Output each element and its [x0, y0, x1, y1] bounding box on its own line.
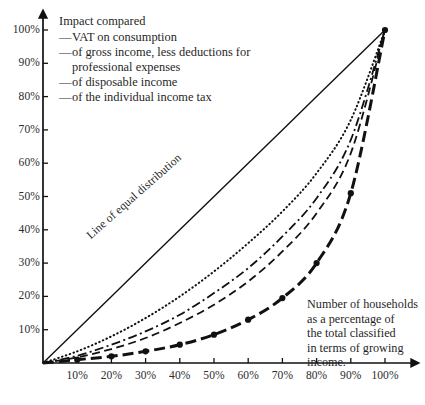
- y-tick-label: 70%: [0, 123, 40, 135]
- legend-item-continuation: professional expenses: [59, 60, 309, 75]
- series-marker: [74, 357, 80, 363]
- y-tick-label: 60%: [0, 156, 40, 168]
- legend-dash-icon: —: [59, 75, 71, 90]
- legend-item-disposable-income: —of disposable income: [59, 75, 309, 90]
- x-axis-annotation: Number of households as a percentage of …: [307, 297, 425, 370]
- series-marker: [245, 317, 251, 323]
- legend-item-label: VAT on consumption: [72, 30, 177, 44]
- series-marker: [382, 27, 388, 33]
- legend-item-label: of gross income, less deductions for: [72, 45, 250, 59]
- annotation-line-3: the total classified: [307, 326, 425, 341]
- series-marker: [314, 260, 320, 266]
- y-tick-label: 90%: [0, 56, 40, 68]
- annotation-line-1: Number of households: [307, 297, 425, 312]
- series-marker: [177, 342, 183, 348]
- legend-dash-icon: —: [59, 45, 71, 60]
- y-tick-label: 50%: [0, 190, 40, 202]
- series-marker: [348, 190, 354, 196]
- legend-title: Impact compared: [59, 14, 309, 29]
- legend-item-label: of disposable income: [72, 75, 177, 89]
- y-tick-label: 30%: [0, 256, 40, 268]
- annotation-line-2: as a percentage of: [307, 312, 425, 327]
- x-tick-label: 100%: [365, 369, 405, 381]
- y-tick-label: 40%: [0, 223, 40, 235]
- annotation-line-5: income.: [307, 355, 425, 370]
- legend-item-vat: —VAT on consumption: [59, 30, 309, 45]
- y-tick-label: 10%: [0, 323, 40, 335]
- legend-dash-icon: —: [59, 30, 71, 45]
- legend-dash-icon: —: [59, 90, 71, 105]
- y-tick-label: 100%: [0, 23, 40, 35]
- legend: Impact compared —VAT on consumption —of …: [59, 14, 309, 105]
- lorenz-curve-chart: Impact compared —VAT on consumption —of …: [0, 0, 425, 405]
- series-marker: [279, 295, 285, 301]
- legend-item-gross-income: —of gross income, less deductions for: [59, 45, 309, 60]
- series-marker: [211, 332, 217, 338]
- y-tick-label: 80%: [0, 90, 40, 102]
- y-tick-label: 20%: [0, 289, 40, 301]
- legend-item-label: of the individual income tax: [72, 90, 212, 104]
- annotation-line-4: in terms of growing: [307, 341, 425, 356]
- series-marker: [108, 353, 114, 359]
- series-marker: [143, 348, 149, 354]
- legend-item-income-tax: —of the individual income tax: [59, 90, 309, 105]
